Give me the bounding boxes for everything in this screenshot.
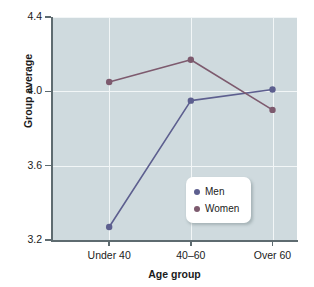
legend-label: Women — [205, 203, 239, 214]
legend-item-men[interactable]: Men — [194, 183, 251, 200]
legend-marker-icon — [194, 206, 200, 212]
x-axis-title: Age group — [52, 268, 297, 280]
data-point-women-1[interactable] — [188, 57, 194, 63]
data-point-men-1[interactable] — [188, 97, 194, 103]
legend-label: Men — [205, 186, 224, 197]
legend-marker-icon — [194, 189, 200, 195]
series-layer — [0, 0, 314, 287]
data-point-men-0[interactable] — [106, 224, 112, 230]
chart-legend[interactable]: MenWomen — [186, 177, 251, 223]
chart-figure: 3.23.64.04.4 Under 4040–60Over 60 Group … — [0, 0, 314, 287]
y-axis-title: Group average — [22, 21, 34, 161]
data-point-women-0[interactable] — [106, 79, 112, 85]
data-point-men-2[interactable] — [269, 86, 275, 92]
legend-item-women[interactable]: Women — [194, 200, 251, 217]
data-point-women-2[interactable] — [269, 107, 275, 113]
